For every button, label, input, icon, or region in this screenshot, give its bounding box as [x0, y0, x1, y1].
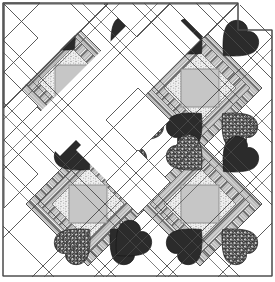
center-square: [181, 69, 219, 107]
center-square: [181, 185, 219, 223]
center-square: [69, 185, 107, 223]
quilt-pattern-figure: [0, 0, 275, 282]
quilt-diagram-canvas: [0, 0, 275, 282]
